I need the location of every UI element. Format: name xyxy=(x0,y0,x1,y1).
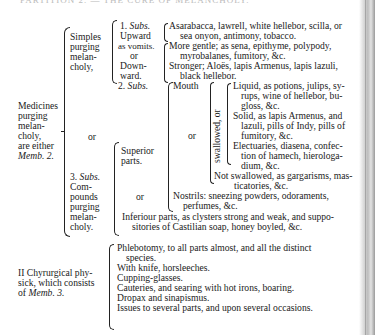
chyrurgical-memb-ref: Memb. 3. xyxy=(28,287,64,298)
sub2-subs: Subs. xyxy=(128,80,149,91)
upward-brace xyxy=(164,23,168,42)
page-gutter xyxy=(359,0,375,335)
root-memb: Memb. 2. xyxy=(18,151,54,161)
nostrils: perfumes, &c. xyxy=(183,201,238,211)
compounds-brace xyxy=(114,142,119,236)
book-page: PARTITION 2. — THE CURE OF MELANCHOLY. M… xyxy=(0,0,375,335)
chyrurgical-of: of xyxy=(18,287,26,298)
sub2-num: 2. xyxy=(118,80,125,91)
sub2-heading: 2. Subs. xyxy=(118,81,148,91)
root-brace-notch xyxy=(61,131,65,132)
chyrurgical-item: Issues to several parts, and upon severa… xyxy=(117,303,313,313)
simples-brace xyxy=(112,20,117,84)
chyrurgical-memb: of Memb. 3. xyxy=(18,288,64,298)
swallowed-label: swallowed, or xyxy=(211,109,222,163)
downward-brace xyxy=(164,43,168,83)
inferior: sitories of Castilian soap, honey boyled… xyxy=(132,222,302,232)
simples-line: choly, xyxy=(70,62,93,72)
middle-or: or xyxy=(88,132,96,142)
mouth-label: Mouth xyxy=(173,81,199,91)
upward-line: Upward xyxy=(120,31,151,41)
running-header: PARTITION 2. — THE CURE OF MELANCHOLY. xyxy=(20,0,249,5)
superior-line: parts. xyxy=(121,156,142,166)
swallowed-brace xyxy=(227,83,231,165)
chyrurgical-brace xyxy=(109,244,114,330)
compounds-line: choly. xyxy=(70,222,93,232)
gutter-line xyxy=(365,0,366,335)
compounds-or: or xyxy=(136,192,144,202)
mouth-or: or xyxy=(188,131,196,141)
